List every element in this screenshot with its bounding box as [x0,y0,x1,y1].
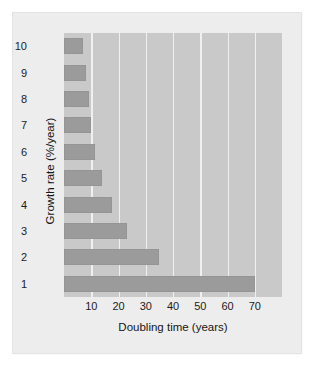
y-tick-label-7: 7 [0,120,27,131]
bar-growth-rate-5 [64,170,102,186]
y-tick-label-1: 1 [0,278,27,289]
bar-growth-rate-4 [64,197,112,213]
bar-row [64,112,282,138]
bar-growth-rate-7 [64,117,91,133]
y-tick-label-9: 9 [0,67,27,78]
bar-row [64,165,282,191]
bar-row [64,139,282,165]
y-tick-label-5: 5 [0,173,27,184]
x-tick-label-30: 30 [140,301,152,312]
bar-row [64,191,282,217]
bar-growth-rate-9 [64,65,86,81]
y-tick-label-2: 2 [0,252,27,263]
bar-row [64,59,282,85]
figure-card: 10987654321 10203040506070 Doubling time… [13,13,301,353]
bar-growth-rate-6 [64,144,95,160]
bar-row [64,33,282,59]
bar-growth-rate-10 [64,38,83,54]
x-tick-label-10: 10 [85,301,97,312]
bar-row [64,244,282,270]
bar-growth-rate-2 [64,249,159,265]
bar-growth-rate-1 [64,276,255,292]
x-tick-label-60: 60 [221,301,233,312]
y-tick-label-10: 10 [0,41,27,52]
bar-row [64,271,282,297]
bar-growth-rate-3 [64,223,127,239]
bar-chart-figure: 10987654321 10203040506070 Doubling time… [13,13,301,353]
bar-series [64,33,282,297]
y-tick-label-3: 3 [0,226,27,237]
x-axis-label: Doubling time (years) [64,321,282,333]
x-tick-label-40: 40 [167,301,179,312]
plot-area [64,33,282,297]
figure-page: 10987654321 10203040506070 Doubling time… [0,0,314,366]
y-tick-label-6: 6 [0,146,27,157]
x-tick-label-50: 50 [194,301,206,312]
bar-row [64,218,282,244]
x-tick-label-70: 70 [249,301,261,312]
y-tick-label-4: 4 [0,199,27,210]
y-axis-label: Growth rate (%/year) [44,61,56,281]
bar-row [64,86,282,112]
x-tick-label-20: 20 [112,301,124,312]
y-tick-label-8: 8 [0,94,27,105]
bar-growth-rate-8 [64,91,89,107]
